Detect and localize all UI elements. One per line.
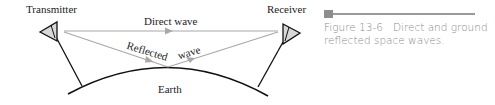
- transmitter-antenna-icon: [40, 22, 57, 41]
- transmitter-label: Transmitter: [26, 3, 77, 15]
- earth-label: Earth: [158, 83, 182, 95]
- figure-caption: Figure 13-6 Direct and ground reflected …: [322, 0, 495, 105]
- figure-number: Figure 13-6: [324, 21, 383, 33]
- receiver-label: Receiver: [267, 3, 306, 15]
- receiver-mast: [258, 42, 283, 87]
- transmitter-mast: [56, 37, 82, 86]
- caption-marker-icon: [324, 10, 333, 18]
- caption-text: Figure 13-6 Direct and ground reflected …: [324, 21, 489, 47]
- receiver-antenna-icon: [283, 24, 300, 44]
- direct-wave-label: Direct wave: [144, 15, 197, 27]
- caption-divider: [333, 13, 475, 15]
- space-wave-diagram: Transmitter Receiver Direct wave Reflect…: [0, 0, 320, 105]
- direct-wave-arrow-icon: [165, 28, 173, 35]
